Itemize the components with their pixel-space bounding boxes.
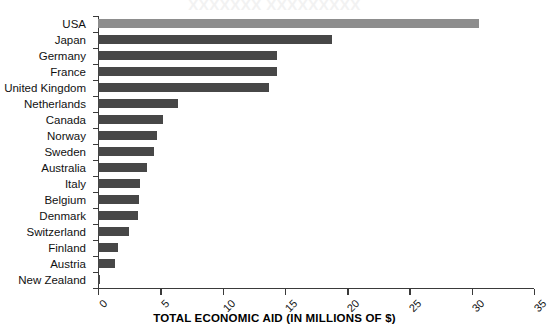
x-axis-tick	[285, 289, 286, 295]
y-axis-category-labels: USAJapanGermanyFranceUnited KingdomNethe…	[0, 16, 92, 288]
bar-row	[98, 16, 534, 32]
x-axis-tick	[409, 289, 410, 295]
y-axis-label: Sweden	[0, 144, 92, 160]
y-axis-tick	[93, 112, 98, 113]
bar-row	[98, 192, 534, 208]
y-axis-tick	[93, 240, 98, 241]
bar	[98, 51, 277, 60]
plot-area	[98, 16, 534, 288]
y-axis-label: Germany	[0, 48, 92, 64]
y-axis-tick	[93, 224, 98, 225]
bar-row	[98, 112, 534, 128]
bar-row	[98, 128, 534, 144]
x-axis-tick	[98, 289, 99, 295]
bar	[98, 147, 154, 156]
x-axis-tick-label: 20	[349, 293, 366, 310]
bar	[98, 131, 157, 140]
y-axis-label: Italy	[0, 176, 92, 192]
x-axis-tick	[472, 289, 473, 295]
bar	[98, 67, 277, 76]
y-axis-label: Austria	[0, 256, 92, 272]
y-axis-tick	[93, 144, 98, 145]
y-axis-tick	[93, 48, 98, 49]
bar	[98, 195, 139, 204]
y-axis-label: USA	[0, 16, 92, 32]
y-axis-label: Switzerland	[0, 224, 92, 240]
x-axis-tick-label: 25	[411, 293, 428, 310]
bar-row	[98, 32, 534, 48]
y-axis-label: New Zealand	[0, 272, 92, 288]
bar-row	[98, 96, 534, 112]
bar-row	[98, 80, 534, 96]
y-axis-label: France	[0, 64, 92, 80]
bar-row	[98, 208, 534, 224]
bar	[98, 259, 115, 268]
x-axis-tick	[347, 289, 348, 295]
bar	[98, 275, 100, 284]
bar-row	[98, 64, 534, 80]
bar-row	[98, 160, 534, 176]
bar	[98, 99, 178, 108]
y-axis-label: Netherlands	[0, 96, 92, 112]
bar-chart: XXXXXXX XXXXXXXXX USAJapanGermanyFranceU…	[0, 0, 549, 331]
bar	[98, 115, 163, 124]
x-axis-tick	[534, 289, 535, 295]
y-axis-label: Denmark	[0, 208, 92, 224]
bar-row	[98, 256, 534, 272]
y-axis-label: Canada	[0, 112, 92, 128]
y-axis-tick	[93, 208, 98, 209]
y-axis-label: Belgium	[0, 192, 92, 208]
y-axis-tick	[93, 80, 98, 81]
bar	[98, 227, 129, 236]
bar-row	[98, 176, 534, 192]
x-axis-tick-label: 0	[99, 295, 112, 308]
x-axis-tick	[160, 289, 161, 295]
x-axis-tick-label: 30	[473, 293, 490, 310]
x-axis-ticks: 05101520253035	[98, 289, 534, 297]
bar	[98, 179, 140, 188]
x-axis-tick-label: 35	[536, 293, 549, 310]
x-axis-tick	[223, 289, 224, 295]
faint-page-title: XXXXXXX XXXXXXXXX	[0, 0, 549, 13]
bar-row	[98, 48, 534, 64]
y-axis-tick	[93, 64, 98, 65]
y-axis-tick	[93, 96, 98, 97]
y-axis-tick	[93, 272, 98, 273]
bar-row	[98, 144, 534, 160]
y-axis-tick	[93, 256, 98, 257]
y-axis-label: Finland	[0, 240, 92, 256]
bar	[98, 83, 269, 92]
bar	[98, 211, 138, 220]
x-axis-tick-label: 5	[161, 295, 174, 308]
y-axis-tick	[93, 192, 98, 193]
y-axis-label: Japan	[0, 32, 92, 48]
x-axis-tick-label: 15	[287, 293, 304, 310]
x-axis-tick-label: 10	[224, 293, 241, 310]
y-axis-tick	[93, 176, 98, 177]
bar-row	[98, 224, 534, 240]
y-axis-label: United Kingdom	[0, 80, 92, 96]
y-axis-label: Norway	[0, 128, 92, 144]
bar	[98, 19, 479, 28]
y-axis-tick	[93, 128, 98, 129]
bar	[98, 35, 332, 44]
bar-row	[98, 240, 534, 256]
bar	[98, 163, 147, 172]
bar	[98, 243, 118, 252]
y-axis-tick	[93, 160, 98, 161]
y-axis-label: Australia	[0, 160, 92, 176]
bar-rows	[98, 16, 534, 288]
bar-row	[98, 272, 534, 288]
y-axis-tick	[93, 16, 98, 17]
y-axis-tick	[93, 32, 98, 33]
x-axis-title: TOTAL ECONOMIC AID (IN MILLIONS OF $)	[0, 312, 549, 324]
